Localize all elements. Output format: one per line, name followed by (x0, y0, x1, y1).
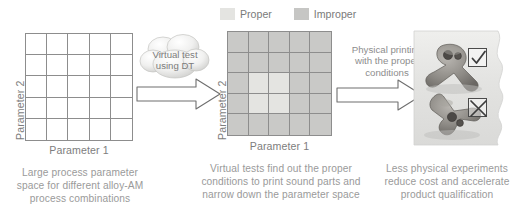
legend-label-improper: Improper (314, 8, 356, 20)
grid-cell (47, 119, 68, 140)
grid-cell (290, 73, 311, 94)
grid-cell (26, 98, 47, 119)
stage3-caption: Less physical experiments reduce cost an… (374, 162, 520, 202)
grid-cell (68, 119, 89, 140)
grid-cell (310, 32, 331, 53)
stage2-x-axis-label: Parameter 1 (227, 140, 332, 152)
grid-cell (290, 53, 311, 74)
rejected-part-checkbox (468, 98, 487, 117)
grid-cell (111, 76, 132, 97)
stage1-x-axis-label: Parameter 1 (25, 144, 133, 156)
grid-cell (26, 55, 47, 76)
grid-cell (269, 114, 290, 135)
grid-cell (310, 53, 331, 74)
grid-cell (111, 34, 132, 55)
grid-cell (47, 34, 68, 55)
grid-cell (47, 76, 68, 97)
process-qualification-figure: Parameter 2 Parameter 1 Large process pa… (0, 0, 522, 212)
cloud-icon (139, 33, 211, 81)
grid-cell (90, 119, 111, 140)
legend-item-proper: Proper (220, 8, 272, 20)
cross-icon (469, 99, 488, 118)
grid-cell (90, 76, 111, 97)
grid-cell (290, 114, 311, 135)
grid-cell (228, 114, 249, 135)
grid-cell-proper (249, 73, 270, 94)
grid-cell (111, 119, 132, 140)
grid-cell (290, 32, 311, 53)
grid-cell (47, 98, 68, 119)
grid-cell (310, 73, 331, 94)
stage2-legend: Proper Improper (220, 8, 356, 20)
stage1-caption: Large process parameter space for differ… (8, 166, 152, 206)
legend-label-proper: Proper (240, 8, 272, 20)
legend-swatch-improper-icon (294, 8, 309, 20)
grid-cell (26, 34, 47, 55)
grid-cell (228, 94, 249, 115)
grid-cell (310, 114, 331, 135)
grid-cell (249, 32, 270, 53)
grid-cell (68, 55, 89, 76)
grid-cell (249, 114, 270, 135)
grid-cell (310, 94, 331, 115)
grid-cell (290, 94, 311, 115)
grid-cell (68, 34, 89, 55)
legend-item-improper: Improper (294, 8, 356, 20)
grid-cell-proper (269, 94, 290, 115)
grid-cell (228, 73, 249, 94)
accepted-part-checkbox (468, 48, 487, 67)
grid-cell (68, 98, 89, 119)
grid-cell (111, 98, 132, 119)
physical-printing-arrow-icon (336, 78, 424, 112)
printed-parts-photo (412, 27, 516, 149)
grid-cell (269, 53, 290, 74)
grid-cell (90, 55, 111, 76)
virtual-test-arrow-icon (136, 77, 222, 111)
check-icon (469, 49, 488, 68)
grid-cell (26, 76, 47, 97)
grid-cell-proper (249, 94, 270, 115)
stage2-caption: Virtual tests find out the proper condit… (186, 162, 376, 202)
stage2-parameter-grid (227, 31, 332, 136)
grid-cell (68, 76, 89, 97)
legend-swatch-proper-icon (220, 8, 235, 20)
grid-cell (228, 32, 249, 53)
grid-cell (249, 53, 270, 74)
grid-cell (90, 98, 111, 119)
grid-cell (90, 34, 111, 55)
grid-cell (228, 53, 249, 74)
grid-cell (111, 55, 132, 76)
grid-cell (26, 119, 47, 140)
stage1-parameter-grid (25, 33, 133, 141)
virtual-test-cloud: Virtual test using DT (139, 33, 211, 81)
grid-cell-proper (269, 73, 290, 94)
grid-cell (47, 55, 68, 76)
grid-cell (269, 32, 290, 53)
